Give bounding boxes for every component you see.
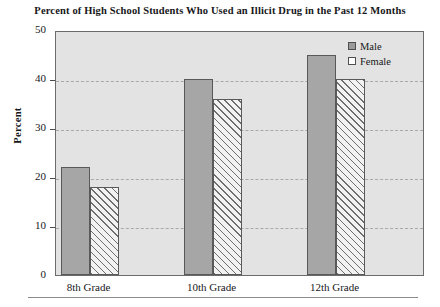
y-axis-title: Percent: [12, 71, 23, 181]
x-axis-tick-label: 10th Grade: [162, 281, 262, 293]
legend-swatch-female-icon: [348, 57, 356, 65]
legend-item-female: Female: [348, 54, 391, 68]
x-axis-tick-label: 8th Grade: [39, 281, 139, 293]
legend-label: Male: [360, 41, 382, 52]
y-axis-tick-mark: [50, 178, 55, 179]
y-axis-tick-mark: [50, 80, 55, 81]
legend-label: Female: [360, 56, 391, 67]
bar-8th-grade-male: [61, 167, 90, 275]
bar-hatch-pattern: [91, 188, 118, 274]
bar-hatch-pattern: [214, 100, 241, 274]
footer-divider: [28, 297, 418, 298]
bar-12th-grade-female: [336, 79, 365, 275]
x-axis-tick-label: 12th Grade: [285, 281, 385, 293]
bar-10th-grade-male: [184, 79, 213, 275]
gridline: [56, 81, 423, 82]
chart-figure: Percent of High School Students Who Used…: [0, 0, 440, 307]
chart-title: Percent of High School Students Who Used…: [0, 5, 440, 16]
bar-hatch-pattern: [337, 80, 364, 274]
legend-swatch-male-icon: [348, 42, 356, 50]
chart-legend: MaleFemale: [348, 39, 391, 69]
bar-8th-grade-female: [90, 187, 119, 275]
y-axis-tick-mark: [50, 129, 55, 130]
y-axis-tick-mark: [50, 227, 55, 228]
bar-12th-grade-male: [307, 55, 336, 276]
legend-item-male: Male: [348, 39, 391, 53]
bar-10th-grade-female: [213, 99, 242, 275]
